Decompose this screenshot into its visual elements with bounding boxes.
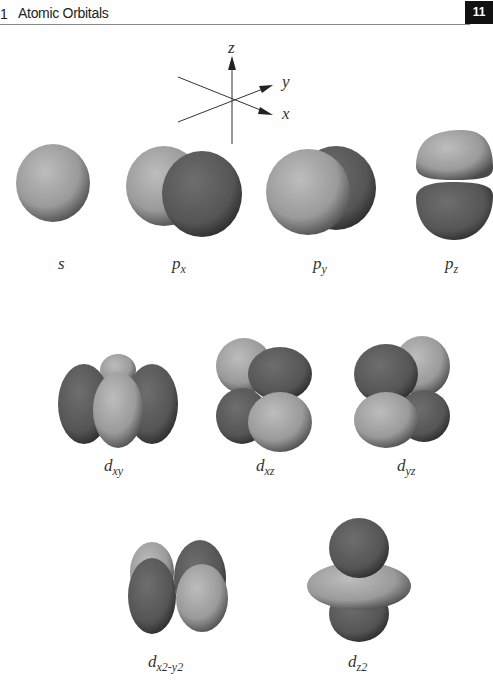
py-label: py bbox=[313, 254, 327, 277]
header-rule bbox=[0, 24, 470, 25]
axes-diagram: z y x bbox=[170, 44, 300, 153]
pz-label: pz bbox=[445, 254, 458, 277]
dz2-orbital bbox=[304, 514, 414, 644]
dxz-orbital bbox=[214, 336, 314, 452]
py-orbital bbox=[264, 144, 380, 236]
running-title: Atomic Orbitals bbox=[18, 5, 108, 21]
px-orbital bbox=[124, 144, 244, 240]
page-number: 11 bbox=[465, 1, 493, 24]
page-header: 1 Atomic Orbitals 11 bbox=[0, 0, 493, 24]
s-orbital bbox=[14, 142, 94, 226]
dz2-label: dz2 bbox=[348, 652, 367, 675]
dxy-orbital bbox=[56, 352, 180, 448]
y-axis-label: y bbox=[282, 72, 290, 92]
z-axis-label: z bbox=[228, 38, 235, 58]
dx2-y2-label: dx2-y2 bbox=[148, 652, 183, 675]
dxz-label: dxz bbox=[256, 456, 275, 479]
dx2-y2-orbital bbox=[126, 538, 236, 634]
s-label: s bbox=[58, 254, 65, 274]
pz-orbital bbox=[412, 128, 493, 244]
px-label: px bbox=[172, 254, 186, 277]
chapter-number: 1 bbox=[0, 6, 8, 22]
dyz-orbital bbox=[354, 332, 454, 448]
x-axis-label: x bbox=[282, 104, 290, 124]
dyz-label: dyz bbox=[397, 456, 416, 479]
dxy-label: dxy bbox=[104, 456, 123, 479]
